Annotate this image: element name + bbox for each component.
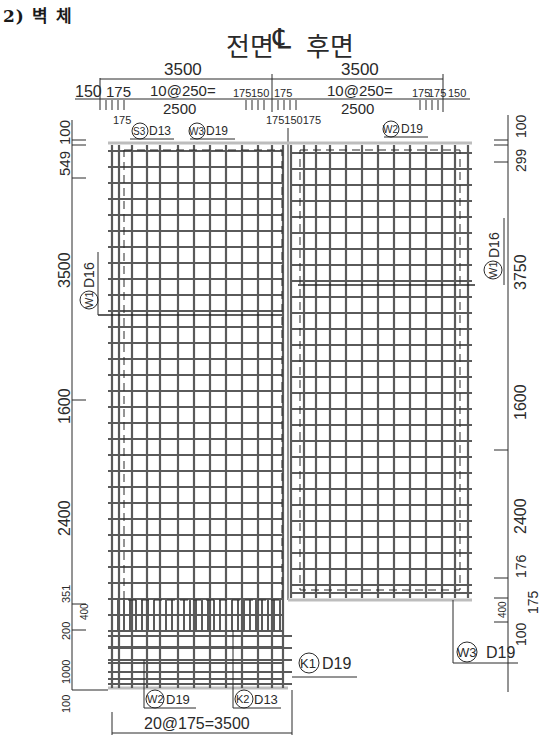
top-dim-2500-left: 2500 bbox=[163, 100, 196, 117]
left-dim-400: 400 bbox=[79, 603, 90, 620]
rebar-mark-w3-top: W3 bbox=[189, 126, 204, 137]
top-dim-175-below: 175 bbox=[113, 114, 131, 126]
left-dim-3500: 3500 bbox=[56, 252, 73, 288]
top-dim-175-e: 175 bbox=[428, 87, 446, 99]
rebar-size-k2: D13 bbox=[254, 692, 278, 707]
rebar-label-k1: K1 D19 bbox=[292, 653, 357, 677]
rebar-grid-back bbox=[290, 145, 472, 598]
top-dim-150-c: 150 bbox=[251, 87, 269, 99]
rebar-mark-w3-bottom: W3 bbox=[457, 645, 477, 660]
top-dim-175-c: 175 bbox=[274, 87, 292, 99]
rebar-size-s3: D13 bbox=[149, 124, 171, 138]
left-dim-1600: 1600 bbox=[56, 388, 73, 424]
rebar-mark-s3: S3 bbox=[133, 126, 146, 137]
left-dim-549: 549 bbox=[56, 151, 73, 176]
top-dim-center-below: 175150175 bbox=[266, 114, 321, 126]
rebar-mark-w2-bottom: W2 bbox=[147, 693, 164, 705]
right-dim-100-bottom: 100 bbox=[513, 622, 529, 646]
top-dim-175-a: 175 bbox=[106, 83, 131, 100]
rebar-size-w3-top: D19 bbox=[206, 124, 228, 138]
right-dim-100: 100 bbox=[513, 114, 529, 138]
rebar-wall-drawing: 전면 ℄ 후면 3500 3500 150 175 10@250= 175 15… bbox=[0, 0, 556, 749]
rebar-size-w3-bottom: D19 bbox=[486, 644, 515, 661]
right-dim-175: 175 bbox=[525, 590, 541, 614]
top-dim-left-total: 3500 bbox=[164, 60, 202, 79]
back-label: 후면 bbox=[306, 32, 354, 62]
rebar-size-w2-bottom: D19 bbox=[166, 692, 190, 707]
rebar-mark-w1-right: W1 bbox=[487, 262, 499, 279]
rebar-size-w1-right: D16 bbox=[486, 232, 502, 258]
left-dim-1000: 1000 bbox=[60, 660, 72, 684]
right-dim-2400: 2400 bbox=[512, 498, 529, 534]
rebar-label-s3: S3 D13 bbox=[130, 123, 174, 139]
right-dim-299: 299 bbox=[513, 148, 529, 172]
rebar-label-w1-left: W1 D16 bbox=[80, 252, 98, 315]
top-dim-right-total: 3500 bbox=[341, 60, 379, 79]
left-dim-351: 351 bbox=[60, 585, 72, 603]
rebar-label-w2-top: W2 D19 bbox=[383, 121, 428, 137]
left-dim-2400: 2400 bbox=[56, 500, 73, 536]
rebar-size-k1: D19 bbox=[322, 655, 351, 672]
top-dim-150-left: 150 bbox=[75, 83, 102, 100]
right-dim-176: 176 bbox=[513, 554, 529, 578]
rebar-label-w1-right: W1 D16 bbox=[484, 218, 504, 285]
right-dim-3750: 3750 bbox=[512, 254, 529, 290]
front-label: 전면 bbox=[226, 32, 274, 62]
right-dim-1600: 1600 bbox=[512, 384, 529, 420]
rebar-grid-front bbox=[108, 145, 292, 688]
rebar-mark-w2-top: W2 bbox=[383, 124, 398, 135]
left-dimension-chain bbox=[72, 120, 108, 690]
top-dim-spacing-right: 10@250= bbox=[327, 82, 393, 99]
bottom-dim-label: 20@175=3500 bbox=[144, 715, 250, 732]
left-dim-100-top: 100 bbox=[56, 120, 73, 145]
left-dim-200: 200 bbox=[60, 622, 72, 640]
rebar-mark-k2: K2 bbox=[236, 693, 249, 705]
top-dim-150-right: 150 bbox=[448, 87, 466, 99]
rebar-mark-k1: K1 bbox=[300, 656, 316, 671]
left-dim-100-bottom: 100 bbox=[60, 695, 72, 713]
rebar-size-w2-top: D19 bbox=[401, 122, 423, 136]
rebar-mark-w1-left: W1 bbox=[83, 292, 95, 309]
top-dim-175-b: 175 bbox=[233, 87, 251, 99]
top-dim-spacing-left: 10@250= bbox=[150, 82, 216, 99]
rebar-label-w3-top: W3 D19 bbox=[189, 123, 235, 139]
rebar-size-w1-left: D16 bbox=[81, 262, 97, 288]
top-dim-2500-right: 2500 bbox=[341, 100, 374, 117]
centerline-symbol: ℄ bbox=[272, 22, 291, 55]
right-dim-400: 400 bbox=[497, 601, 508, 618]
